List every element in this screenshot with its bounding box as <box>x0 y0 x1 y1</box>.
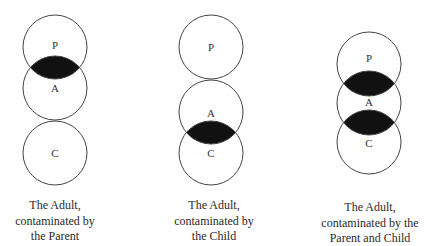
caption-line: The Adult, <box>0 198 125 214</box>
caption-child-contamination: The Adult, contaminated by the Child <box>144 198 284 245</box>
caption-line: contaminated by <box>144 214 284 230</box>
caption-line: contaminated by <box>0 214 125 230</box>
caption-double-contamination: The Adult, contaminated by the Parent an… <box>300 200 424 246</box>
diagram-parent-contamination: P A C <box>23 15 87 185</box>
parent-label: P <box>366 52 372 64</box>
caption-line: The Adult, <box>300 200 424 216</box>
adult-label: A <box>207 107 215 119</box>
caption-line: the Child <box>144 229 284 245</box>
adult-label: A <box>51 82 59 94</box>
caption-line: the Parent <box>0 229 125 245</box>
diagram-double-contamination: P A C <box>337 32 401 174</box>
caption-line: contaminated by the <box>300 216 424 232</box>
caption-line: The Adult, <box>144 198 284 214</box>
child-label: C <box>365 137 372 149</box>
parent-label: P <box>208 41 214 53</box>
diagram-child-contamination: P A C <box>179 15 243 185</box>
caption-parent-contamination: The Adult, contaminated by the Parent <box>0 198 125 245</box>
caption-line: Parent and Child <box>300 231 424 246</box>
parent-label: P <box>52 39 58 51</box>
child-label: C <box>207 147 214 159</box>
child-label: C <box>51 147 58 159</box>
adult-label: A <box>365 96 373 108</box>
